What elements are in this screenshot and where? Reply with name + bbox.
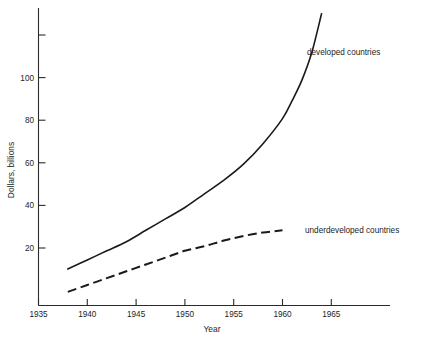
y-axis-title: Dollars, billions [6,142,16,198]
axis-y: 20 40 60 80 100 [20,8,45,306]
series-label-underdeveloped-countries: underdeveloped countries [305,226,399,235]
x-tick-label-1950: 1950 [176,310,195,319]
x-tick-label-1960: 1960 [273,310,292,319]
y-tick-label-20: 20 [25,244,35,253]
x-tick-label-1955: 1955 [225,310,244,319]
series-label-developed-countries: developed countries [307,48,380,57]
chart-figure: 20 40 60 80 100 1935 1940 1945 1950 1955… [0,0,424,339]
axis-x: 1935 1940 1945 1950 1955 1960 1965 [29,299,390,319]
y-tick-label-60: 60 [25,159,35,168]
series-line-developed-countries [68,14,322,269]
x-tick-label-1935: 1935 [29,310,48,319]
x-tick-label-1945: 1945 [127,310,146,319]
y-tick-label-80: 80 [25,116,35,125]
x-tick-label-1965: 1965 [322,310,341,319]
x-axis-title: Year [204,324,221,334]
y-tick-label-40: 40 [25,201,35,210]
x-tick-label-1940: 1940 [78,310,97,319]
series-line-underdeveloped-countries [68,230,283,292]
y-tick-label-100: 100 [20,74,34,83]
